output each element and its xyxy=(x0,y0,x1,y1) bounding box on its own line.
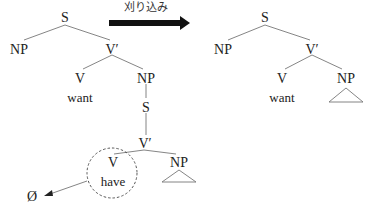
node-vbar-embedded: V′ xyxy=(138,136,151,151)
word-want: want xyxy=(67,90,93,105)
node-np-subject-after: NP xyxy=(214,42,232,57)
node-np-embedded: NP xyxy=(170,155,188,170)
node-s-root: S xyxy=(61,10,69,25)
node-np-subject: NP xyxy=(10,42,28,57)
pruning-diagram: 刈り込み S NP V′ V want NP S V′ V have NP Ø xyxy=(0,0,371,209)
deletion-arrow-head-icon xyxy=(44,190,53,196)
node-np-object-after: NP xyxy=(337,71,355,86)
word-want-after: want xyxy=(269,90,295,105)
arrow-head-icon xyxy=(180,16,190,30)
transform-arrow: 刈り込み xyxy=(109,1,190,30)
arrow-shaft xyxy=(109,20,182,26)
node-vbar-after: V′ xyxy=(305,42,318,57)
node-vbar: V′ xyxy=(105,42,118,57)
word-have: have xyxy=(101,174,126,189)
node-s-embedded: S xyxy=(142,100,150,115)
node-np-object: NP xyxy=(137,71,155,86)
triangle-icon xyxy=(329,88,363,102)
triangle-icon xyxy=(162,170,196,182)
node-v-embedded: V xyxy=(108,155,118,170)
node-v: V xyxy=(75,71,85,86)
null-marker: Ø xyxy=(27,189,37,204)
tree-before: S NP V′ V want NP S V′ V have NP Ø xyxy=(10,10,196,204)
node-s-root-after: S xyxy=(261,10,269,25)
transform-label: 刈り込み xyxy=(124,1,168,14)
node-v-after: V xyxy=(277,71,287,86)
tree-after: S NP V′ V want NP xyxy=(214,10,363,105)
